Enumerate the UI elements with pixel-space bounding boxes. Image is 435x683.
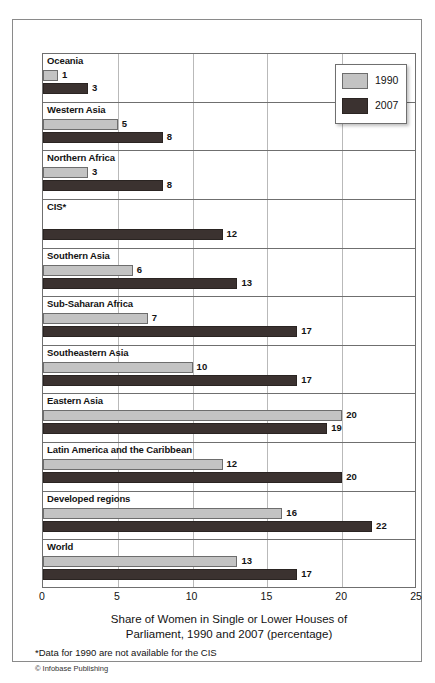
bar-row: 12 [43,459,415,470]
chart-title-line-1: Share of Women in Single or Lower Houses… [42,612,416,627]
bar-value-label: 17 [301,325,312,336]
category-label: Eastern Asia [47,395,103,406]
bar-2007 [43,83,88,94]
x-tick-label: 10 [186,590,198,602]
chart-title: Share of Women in Single or Lower Houses… [42,612,416,642]
bar-value-label: 5 [122,118,127,129]
category-label: CIS* [47,201,66,212]
bar-value-label: 17 [301,374,312,385]
bar-1990 [43,167,88,178]
bar-row: 7 [43,313,415,324]
x-tick-label: 15 [261,590,273,602]
bar-1990 [43,265,133,276]
bar-group: Sub-Saharan Africa717 [43,297,415,346]
legend-label-1990: 1990 [375,74,398,86]
bar-group: Southeastern Asia1017 [43,346,415,395]
bar-value-label: 22 [376,520,387,531]
bar-1990 [43,508,282,519]
bar-1990 [43,459,223,470]
bar-2007 [43,229,223,240]
legend-swatch-1990-icon [342,73,368,89]
bar-row: 8 [43,132,415,143]
x-tick-label: 25 [410,590,422,602]
bar-row: 20 [43,472,415,483]
bar-row: 12 [43,229,415,240]
chart-legend: 1990 2007 [335,64,407,124]
bar-value-label: 6 [137,264,142,275]
copyright-credit: © Infobase Publishing [35,664,108,673]
x-tick-label: 20 [335,590,347,602]
category-label: Southern Asia [47,250,110,261]
bar-row: 22 [43,521,415,532]
figure-frame: Oceania13Western Asia58Northern Africa38… [12,19,422,662]
bar-value-label: 8 [167,131,172,142]
category-label: Latin America and the Caribbean [47,444,192,455]
bar-value-label: 20 [346,409,357,420]
bar-group: Eastern Asia2019 [43,394,415,443]
bar-value-label: 10 [197,361,208,372]
bar-2007 [43,521,372,532]
bar-1990 [43,313,148,324]
bar-value-label: 3 [92,82,97,93]
bar-value-label: 1 [62,69,67,80]
bar-row: 8 [43,180,415,191]
category-label: Sub-Saharan Africa [47,298,133,309]
legend-label-2007: 2007 [375,99,398,111]
bar-value-label: 8 [167,179,172,190]
bar-row: 17 [43,326,415,337]
bar-group: CIS*12 [43,200,415,249]
bar-row: 19 [43,423,415,434]
bar-1990 [43,410,342,421]
bar-group: Developed regions1622 [43,492,415,541]
footnote: *Data for 1990 are not available for the… [35,647,217,658]
bar-row: 6 [43,265,415,276]
bar-value-label: 17 [301,568,312,579]
plot-area: Oceania13Western Asia58Northern Africa38… [42,53,416,588]
legend-swatch-2007-icon [342,98,368,114]
bar-1990 [43,119,118,130]
bar-value-label: 7 [152,312,157,323]
category-label: Northern Africa [47,152,115,163]
bar-group: World1317 [43,540,415,588]
bar-group: Southern Asia613 [43,249,415,298]
category-label: Oceania [47,55,83,66]
bar-row: 17 [43,375,415,386]
bar-2007 [43,569,297,580]
bar-2007 [43,375,297,386]
bar-row: 17 [43,569,415,580]
category-label: Western Asia [47,104,105,115]
bar-value-label: 20 [346,471,357,482]
bar-row: 13 [43,278,415,289]
bar-row: 13 [43,556,415,567]
category-label: World [47,541,73,552]
bar-2007 [43,472,342,483]
x-axis: 0510152025 [42,590,416,604]
bar-group: Northern Africa38 [43,151,415,200]
category-label: Developed regions [47,493,130,504]
bar-2007 [43,326,297,337]
bar-value-label: 12 [227,458,238,469]
chart-title-line-2: Parliament, 1990 and 2007 (percentage) [42,627,416,642]
bar-value-label: 13 [241,277,252,288]
bar-1990 [43,556,237,567]
bar-2007 [43,278,237,289]
bar-1990 [43,70,58,81]
bar-value-label: 12 [227,228,238,239]
bar-value-label: 16 [286,507,297,518]
bar-row: 20 [43,410,415,421]
bar-value-label: 3 [92,166,97,177]
bar-row: 16 [43,508,415,519]
bar-value-label: 19 [331,422,342,433]
bar-row: 3 [43,167,415,178]
x-tick-label: 5 [114,590,120,602]
bar-2007 [43,423,327,434]
bar-2007 [43,132,163,143]
bar-row: 10 [43,362,415,373]
x-tick-label: 0 [39,590,45,602]
category-label: Southeastern Asia [47,347,128,358]
bar-2007 [43,180,163,191]
bar-value-label: 13 [241,555,252,566]
bar-1990 [43,362,193,373]
bar-group: Latin America and the Caribbean1220 [43,443,415,492]
